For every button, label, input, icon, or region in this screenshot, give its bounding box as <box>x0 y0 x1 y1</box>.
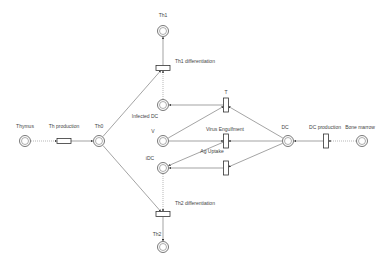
transition-box-icon <box>156 212 170 217</box>
arc-th0-to-th1_diff[interactable] <box>103 71 161 137</box>
transition-label-t: T <box>224 90 227 95</box>
arc-v-to-t[interactable] <box>168 106 223 138</box>
arcs-layer <box>31 37 356 241</box>
place-inner-circle-icon <box>359 138 366 145</box>
transition-box-icon <box>156 66 170 71</box>
transition-ag-uptake[interactable] <box>224 161 229 175</box>
place-inner-circle-icon <box>160 244 167 251</box>
place-label-v: V <box>151 129 154 134</box>
transition-virus-engulfment[interactable] <box>224 134 229 148</box>
place-label-th0: Th0 <box>95 124 104 129</box>
place-inner-circle-icon <box>22 138 29 145</box>
place-dc[interactable] <box>283 136 294 147</box>
place-v[interactable] <box>158 136 169 147</box>
place-inner-circle-icon <box>160 138 167 145</box>
place-label-bone-marrow: Bone marrow <box>345 125 375 130</box>
transition-box-icon <box>224 161 229 175</box>
place-label-th2: Th2 <box>153 232 162 237</box>
transition-dc-production[interactable] <box>324 134 329 148</box>
place-inner-circle-icon <box>160 165 167 172</box>
transition-t[interactable] <box>224 98 229 112</box>
place-label-dc: DC <box>281 125 288 130</box>
petri-net-canvas <box>0 0 390 274</box>
place-label-thymus: Thymus <box>16 124 34 129</box>
place-th2[interactable] <box>158 242 169 253</box>
transition-box-icon <box>324 134 329 148</box>
place-label-infected-dc: Infected DC <box>132 114 158 119</box>
place-bone-marrow[interactable] <box>357 136 368 147</box>
transition-box-icon <box>57 139 71 144</box>
arc-dc-to-ag_uptake[interactable] <box>229 143 283 167</box>
transition-label-virus-engulfment: Virus Engulfment <box>206 127 244 132</box>
arc-dc-to-t[interactable] <box>229 106 283 138</box>
transition-th2-diff[interactable] <box>156 212 170 217</box>
place-inner-circle-icon <box>285 138 292 145</box>
place-label-th1: Th1 <box>159 13 168 18</box>
transition-label-dc-production: DC production <box>309 125 341 130</box>
place-inner-circle-icon <box>160 102 167 109</box>
place-idc[interactable] <box>158 163 169 174</box>
transition-label-ag-uptake: Ag Uptake <box>200 149 223 154</box>
transition-box-icon <box>224 134 229 148</box>
transition-label-th-production: Th production <box>49 124 80 129</box>
place-th0[interactable] <box>94 136 105 147</box>
transition-th1-diff[interactable] <box>156 66 170 71</box>
transition-box-icon <box>224 98 229 112</box>
place-inner-circle-icon <box>160 28 167 35</box>
place-infected-dc[interactable] <box>158 100 169 111</box>
transition-th-production[interactable] <box>57 139 71 144</box>
place-th1[interactable] <box>158 26 169 37</box>
place-thymus[interactable] <box>20 136 31 147</box>
place-inner-circle-icon <box>96 138 103 145</box>
transition-label-th1-diff: Th1 differentiation <box>175 59 215 64</box>
place-label-idc: iDC <box>146 156 154 161</box>
transition-label-th2-diff: Th2 differentiation <box>175 201 215 206</box>
